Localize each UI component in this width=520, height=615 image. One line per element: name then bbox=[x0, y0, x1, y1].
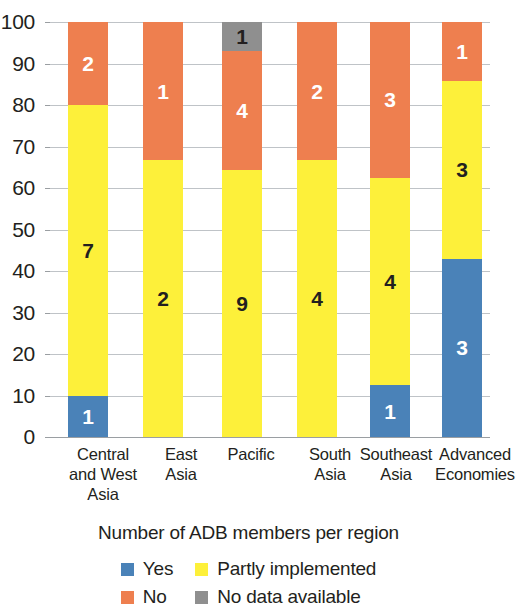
bar-segment-value: 3 bbox=[456, 337, 467, 358]
x-axis-category-label-line: Asia bbox=[50, 484, 156, 504]
y-axis-tick-label: 100 bbox=[0, 11, 35, 32]
bar-segment: 2 bbox=[297, 22, 337, 160]
bar-segment: 9 bbox=[222, 170, 262, 437]
legend-entry[interactable]: Yes bbox=[121, 557, 173, 581]
bar-segment-value: 2 bbox=[311, 81, 322, 102]
bar-segment: 4 bbox=[370, 178, 410, 386]
x-axis-category-label-line: Advanced bbox=[420, 444, 520, 464]
y-axis-tick-label: 20 bbox=[0, 343, 35, 364]
y-axis-tick-mark bbox=[45, 396, 50, 397]
bar-stack: 143 bbox=[370, 22, 410, 437]
bar-segment-value: 3 bbox=[456, 159, 467, 180]
bar-segment-value: 3 bbox=[384, 89, 395, 110]
y-axis-tick-mark bbox=[45, 271, 50, 272]
legend: Number of ADB members per region YesPart… bbox=[0, 521, 497, 609]
legend-swatch-yes-icon bbox=[121, 563, 134, 576]
bar-segment: 3 bbox=[370, 22, 410, 178]
y-axis-tick-mark bbox=[45, 313, 50, 314]
bar-segment-value: 4 bbox=[384, 271, 395, 292]
bar-segment: 2 bbox=[143, 160, 183, 437]
bar-stack: 42 bbox=[297, 22, 337, 437]
bar-segment: 4 bbox=[297, 160, 337, 437]
legend-swatch-no-icon bbox=[121, 591, 134, 604]
bar-column: 143 bbox=[370, 22, 410, 437]
bar-segment-value: 9 bbox=[236, 293, 247, 314]
x-axis-category-label-line: Asia bbox=[143, 464, 219, 484]
x-axis-category-label-line: Economies bbox=[420, 464, 520, 484]
gridline bbox=[50, 313, 490, 314]
bar-column: 941 bbox=[222, 22, 262, 437]
bar-stack: 941 bbox=[222, 22, 262, 437]
y-axis-tick-mark bbox=[45, 230, 50, 231]
bar-stack: 21 bbox=[143, 22, 183, 437]
y-axis-tick-mark bbox=[45, 22, 50, 23]
x-axis-category-label: Centraland WestAsia bbox=[50, 444, 156, 504]
y-axis-tick-label: 80 bbox=[0, 94, 35, 115]
bar-segment: 1 bbox=[68, 396, 108, 438]
legend-entry-label: No data available bbox=[217, 585, 360, 609]
bar-column: 42 bbox=[297, 22, 337, 437]
y-axis-tick-label: 10 bbox=[0, 385, 35, 406]
bar-segment: 7 bbox=[68, 105, 108, 396]
bar-segment: 1 bbox=[442, 22, 482, 81]
x-axis-category-label: Pacific bbox=[206, 444, 296, 464]
y-axis-tick-label: 90 bbox=[0, 53, 35, 74]
bar-segment-value: 1 bbox=[82, 406, 93, 427]
legend-entry-label: No bbox=[143, 585, 167, 609]
bar-segment-value: 2 bbox=[157, 288, 168, 309]
bar-column: 21 bbox=[143, 22, 183, 437]
bar-segment: 3 bbox=[442, 81, 482, 259]
gridline bbox=[50, 437, 490, 438]
bar-segment: 1 bbox=[143, 22, 183, 160]
x-axis-category-label-line: Pacific bbox=[206, 444, 296, 464]
legend-entry[interactable]: Partly implemented bbox=[195, 557, 376, 581]
bar-segment-value: 1 bbox=[157, 81, 168, 102]
y-axis-tick-mark bbox=[45, 437, 50, 438]
gridline bbox=[50, 105, 490, 106]
legend-items: YesPartly implementedNoNo data available bbox=[121, 557, 376, 609]
y-axis-tick-mark bbox=[45, 105, 50, 106]
bar-segment-value: 4 bbox=[311, 288, 322, 309]
y-axis-tick-mark bbox=[45, 64, 50, 65]
y-axis-tick-label: 30 bbox=[0, 302, 35, 323]
bar-segment: 1 bbox=[370, 385, 410, 437]
gridline bbox=[50, 147, 490, 148]
bar-segment: 3 bbox=[442, 259, 482, 437]
y-axis-tick-label: 50 bbox=[0, 219, 35, 240]
gridline bbox=[50, 188, 490, 189]
x-axis-category-label: AdvancedEconomies bbox=[420, 444, 520, 484]
x-axis-category-label-line: and West bbox=[50, 464, 156, 484]
bar-segment: 1 bbox=[222, 22, 262, 51]
gridline bbox=[50, 271, 490, 272]
bar-segment-value: 1 bbox=[456, 41, 467, 62]
y-axis-tick-label: 40 bbox=[0, 260, 35, 281]
legend-swatch-partly-implemented-icon bbox=[195, 563, 208, 576]
bar-segment: 4 bbox=[222, 51, 262, 170]
legend-swatch-no-data-available-icon bbox=[195, 591, 208, 604]
gridline bbox=[50, 22, 490, 23]
bar-segment-value: 1 bbox=[384, 401, 395, 422]
y-axis-tick-label: 60 bbox=[0, 177, 35, 198]
plot-area: 0102030405060708090100 1722194142143331 bbox=[50, 22, 490, 437]
legend-entry-label: Partly implemented bbox=[217, 557, 376, 581]
bar-column: 172 bbox=[68, 22, 108, 437]
gridline bbox=[50, 354, 490, 355]
legend-entry[interactable]: No bbox=[121, 585, 173, 609]
y-axis-tick-label: 0 bbox=[0, 426, 35, 447]
legend-entry[interactable]: No data available bbox=[195, 585, 376, 609]
y-axis-tick-mark bbox=[45, 354, 50, 355]
bar-segment: 2 bbox=[68, 22, 108, 105]
bar-column: 331 bbox=[442, 22, 482, 437]
y-axis-tick-label: 70 bbox=[0, 136, 35, 157]
x-axis-category-label-line: Central bbox=[50, 444, 156, 464]
y-axis-tick-mark bbox=[45, 188, 50, 189]
bar-segment-value: 4 bbox=[236, 100, 247, 121]
bar-segment-value: 1 bbox=[236, 26, 247, 47]
legend-title: Number of ADB members per region bbox=[0, 521, 497, 545]
gridline bbox=[50, 396, 490, 397]
gridline bbox=[50, 230, 490, 231]
bar-stack: 331 bbox=[442, 22, 482, 437]
bar-stack: 172 bbox=[68, 22, 108, 437]
y-axis-tick-mark bbox=[45, 147, 50, 148]
